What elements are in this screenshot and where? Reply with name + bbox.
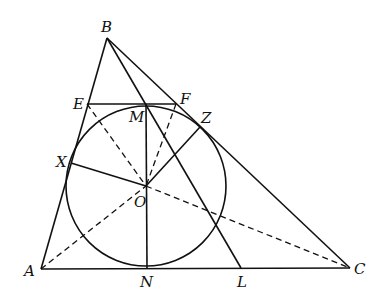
side-ac: [41, 268, 350, 269]
label-c: C: [354, 260, 366, 278]
triangle-abc: [41, 38, 350, 269]
label-f: F: [179, 90, 191, 108]
label-a: A: [22, 262, 35, 280]
label-l: L: [236, 273, 247, 291]
side-ab: [41, 38, 107, 269]
label-m: M: [128, 108, 145, 126]
dashed-fo: [146, 104, 176, 186]
label-e: E: [72, 95, 84, 113]
segment-ox: [71, 163, 146, 186]
label-b: B: [100, 18, 112, 36]
label-z: Z: [200, 109, 212, 127]
dashed-oc: [146, 186, 350, 268]
geometry-diagram: B E F M Z X O A N L C: [0, 0, 386, 304]
segment-oz: [146, 127, 200, 186]
segment-bl: [107, 38, 241, 268]
side-bc: [107, 38, 350, 268]
dashed-ao: [41, 186, 146, 269]
label-o: O: [134, 193, 146, 211]
label-n: N: [139, 273, 154, 291]
label-x: X: [55, 153, 68, 171]
